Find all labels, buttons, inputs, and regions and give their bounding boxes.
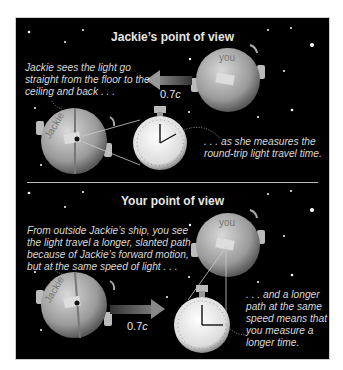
bottom-speed-label: 0.7c xyxy=(127,320,148,332)
arrow-left-icon xyxy=(146,70,192,90)
ship-you-label-top: you xyxy=(219,52,235,63)
arrow-right-icon xyxy=(110,299,165,319)
ship-you-label-bottom: you xyxy=(219,217,235,228)
top-caption-left: Jackie sees the light go straight from t… xyxy=(25,62,150,98)
ship-jackie-bottom xyxy=(36,272,114,338)
top-speed-label: 0.7c xyxy=(160,88,181,100)
bottom-caption-left: From outside Jackie’s ship, you see the … xyxy=(27,225,191,273)
top-panel-title: Jackie’s point of view xyxy=(15,30,330,44)
stopwatch-bottom-icon xyxy=(174,285,246,353)
bottom-caption-right: . . . and a longer path at the same spee… xyxy=(246,289,327,349)
bottom-panel-title: Your point of view xyxy=(15,194,330,208)
top-caption-right: . . . as she measures the round-trip lig… xyxy=(204,136,322,160)
